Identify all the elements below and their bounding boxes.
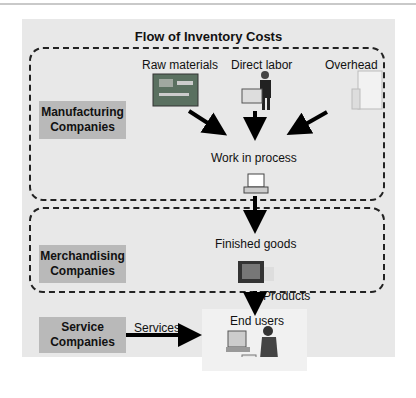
circuit-board-icon [153,74,198,106]
monitor-icon [238,261,274,283]
person-at-computer-icon [226,326,278,357]
office-building-icon [352,71,382,109]
computer-icon [244,174,268,193]
diagram-panel: Flow of Inventory Costs ManufacturingCom… [22,19,395,357]
diagram-graphics [22,19,395,357]
top-divider [0,3,416,5]
worker-icon [242,71,271,110]
